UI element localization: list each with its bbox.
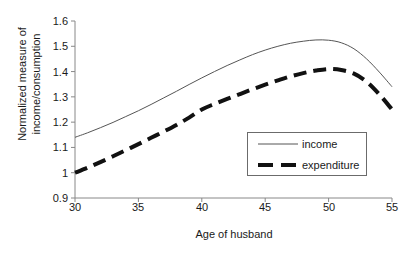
legend: income expenditure [247,132,367,176]
legend-item-expenditure: expenditure [248,154,368,176]
series-income-line [75,40,392,137]
legend-dashed-line-icon [256,158,300,172]
legend-line-icon [256,137,300,151]
legend-label-expenditure: expenditure [302,159,360,171]
legend-item-income: income [248,133,368,155]
chart-figure: Normalized measure ofincome/consumption … [0,0,414,258]
plot-area [0,0,414,258]
y-tick-marks [71,21,75,198]
legend-label-income: income [302,138,337,150]
x-tick-marks [75,198,392,202]
